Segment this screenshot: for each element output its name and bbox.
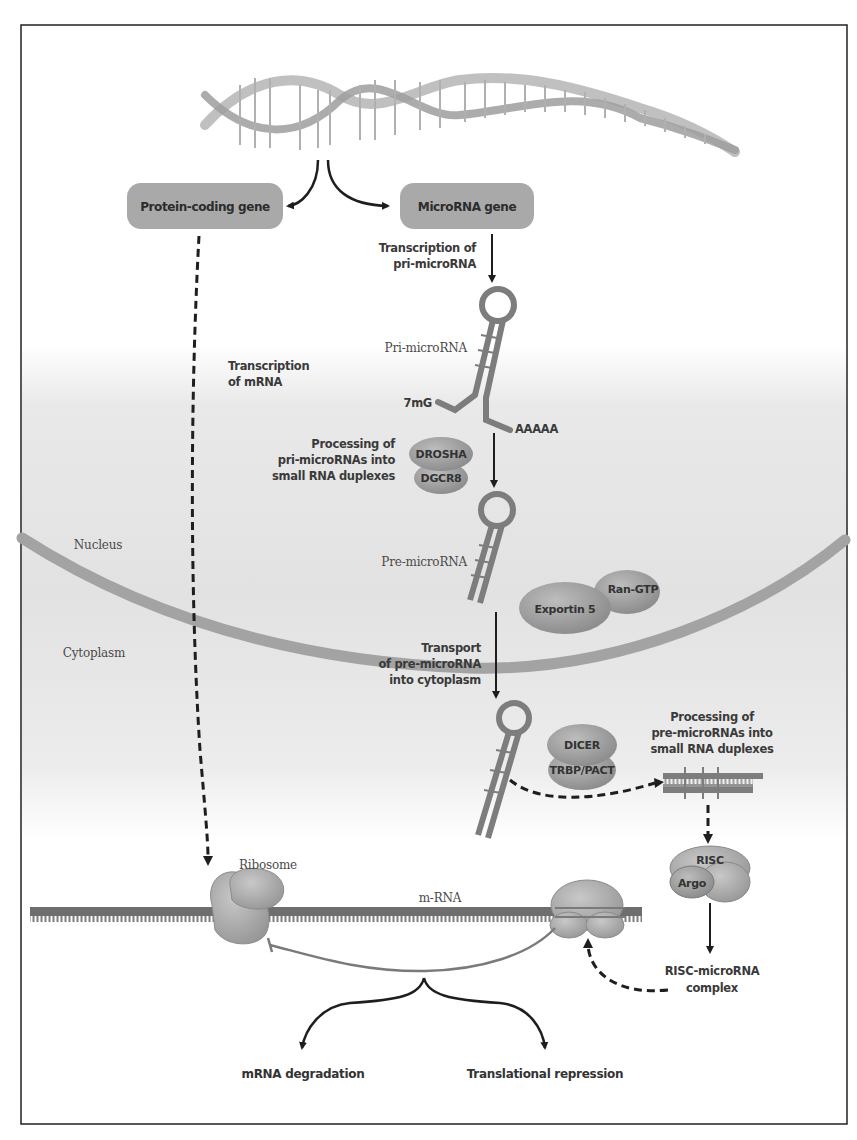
cytoplasm-label: Cytoplasm	[63, 646, 126, 660]
transcription-pri-label-2: pri-microRNA	[393, 257, 476, 271]
cap-7mg-label: 7mG	[403, 396, 432, 410]
ran-gtp-label: Ran-GTP	[608, 583, 659, 596]
pre-microrna-label: Pre-microRNA	[381, 555, 467, 569]
translational-repression-label: Translational repression	[467, 1067, 624, 1081]
protein-coding-gene-box: Protein-coding gene	[127, 183, 283, 229]
processing-nuc-label-3: small RNA duplexes	[272, 469, 395, 483]
protein-coding-gene-label: Protein-coding gene	[140, 200, 270, 214]
exportin-5-label: Exportin 5	[535, 603, 596, 616]
transcription-mrna-label-2: of mRNA	[228, 375, 283, 389]
processing-nuc-label-1: Processing of	[311, 437, 396, 451]
dicer-label: DICER	[564, 739, 601, 752]
processing-cyt-label-2: pre-microRNAs into	[651, 726, 773, 740]
transport-label-2: of pre-microRNA	[378, 657, 481, 671]
transport-label-1: Transport	[421, 641, 481, 655]
transcription-mrna-label-1: Transcription	[228, 359, 309, 373]
drosha-protein: DROSHA	[409, 437, 473, 471]
dicer-protein: DICER	[547, 724, 617, 766]
processing-nuc-label-2: pri-microRNAs into	[278, 453, 396, 467]
processing-cyt-label-3: small RNA duplexes	[651, 742, 774, 756]
cell-background	[22, 345, 846, 840]
transcription-pri-label-1: Transcription of	[379, 241, 478, 255]
microrna-gene-box: MicroRNA gene	[400, 183, 534, 229]
mrna-degradation-label: mRNA degradation	[241, 1067, 364, 1081]
mrna-label: m-RNA	[419, 891, 462, 905]
mrna-strand	[30, 907, 642, 922]
transport-label-3: into cytoplasm	[389, 673, 481, 687]
drosha-label: DROSHA	[416, 448, 468, 461]
dgcr8-label: DGCR8	[421, 472, 462, 485]
risc-complex-label-2: complex	[686, 981, 739, 995]
exportin-5-protein: Exportin 5	[519, 582, 611, 634]
risc-argo-complex: RISC Argo	[670, 846, 750, 902]
argo-label: Argo	[678, 877, 707, 890]
nucleus-label: Nucleus	[74, 538, 122, 552]
processing-cyt-label-1: Processing of	[670, 710, 755, 724]
risc-label: RISC	[696, 854, 724, 867]
risc-bound-ribosome-icon	[550, 880, 625, 938]
risc-complex-label-1: RISC-microRNA	[665, 964, 760, 978]
pri-microrna-label: Pri-microRNA	[385, 341, 468, 355]
ribosome-label: Ribosome	[239, 858, 297, 872]
microrna-gene-label: MicroRNA gene	[418, 200, 517, 214]
polya-tail-label: AAAAA	[515, 422, 558, 436]
mirna-pathway-figure: Protein-coding gene MicroRNA gene Transc…	[0, 0, 857, 1140]
